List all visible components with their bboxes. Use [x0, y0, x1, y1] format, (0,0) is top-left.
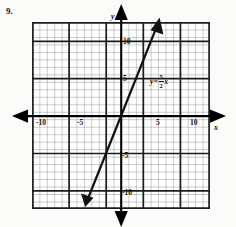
plotted-line-arrow-down: [81, 194, 94, 208]
y-tick-label-10: 10: [123, 38, 131, 46]
x-tick-label-neg10: -10: [36, 119, 46, 127]
x-axis-arrow-left: [12, 110, 28, 123]
plotted-line-arrow-up: [151, 18, 164, 35]
x-axis-arrow-right: [210, 110, 226, 123]
y-axis-arrow-down: [115, 211, 128, 227]
axes-and-line-layer: [0, 0, 236, 227]
y-tick-label-neg10: -10: [122, 189, 132, 197]
equation-lhs: y: [150, 78, 153, 86]
equation-denominator: 2: [159, 83, 163, 90]
equation-annotation: y = 5 2 x: [150, 74, 168, 89]
y-axis-label: y: [111, 13, 115, 21]
x-tick-label-5: 5: [156, 119, 160, 127]
equation-equals: =: [154, 78, 158, 86]
y-tick-label-5: 5: [123, 75, 127, 83]
x-axis-label: x: [214, 124, 218, 132]
coordinate-graph: -10 -5 5 10 10 5 -5 -10 x y y = 5 2 x: [0, 0, 236, 227]
equation-fraction: 5 2: [159, 74, 164, 89]
plotted-line: [88, 26, 157, 199]
worksheet-figure: 9.: [0, 0, 236, 227]
equation-variable: x: [164, 78, 168, 86]
y-axis-arrow-up: [115, 4, 128, 20]
y-tick-label-neg5: -5: [122, 152, 128, 160]
equation-numerator: 5: [159, 74, 163, 81]
x-tick-label-neg5: -5: [77, 119, 83, 127]
x-tick-label-10: 10: [190, 119, 198, 127]
